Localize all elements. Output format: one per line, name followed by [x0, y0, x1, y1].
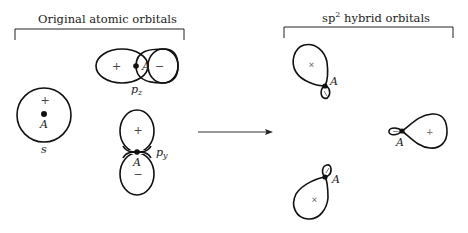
hybrid-plus-sign: + — [308, 193, 320, 205]
hybrid-major-lobe — [402, 114, 447, 148]
py-orbital: + A − py — [120, 110, 168, 195]
py-plus-sign: + — [134, 124, 143, 137]
py-orbital-label: py — [156, 146, 168, 160]
orbital-hybridization-diagram: Original atomic orbitals + A s + A − pz — [0, 0, 468, 233]
s-orbital-label: s — [41, 143, 47, 156]
nucleus-dot-icon — [41, 111, 47, 117]
hybrid-nucleus-label: A — [395, 136, 404, 149]
hybrid-minus-sign: − — [392, 126, 400, 136]
pz-nucleus-label: A — [141, 60, 150, 73]
original-orbitals-bracket — [15, 29, 184, 40]
original-orbitals-group: Original atomic orbitals + A s + A − pz — [15, 12, 184, 195]
hybrid-nucleus-label: A — [331, 173, 340, 186]
hybrid-orbital-upper-left: + A — [293, 44, 338, 98]
nucleus-dot-icon — [133, 63, 139, 69]
hybrid-orbitals-title: sp2 hybrid orbitals — [322, 10, 430, 25]
py-minus-sign: − — [134, 168, 143, 181]
s-orbital-sign: + — [41, 94, 50, 107]
nucleus-dot-icon — [134, 149, 140, 155]
hybrid-orbitals-group: sp2 hybrid orbitals + A + − A + A — [284, 10, 453, 219]
nucleus-dot-icon — [322, 83, 327, 88]
s-nucleus-label: A — [39, 118, 48, 131]
hybrid-orbital-lower: + A — [294, 165, 340, 219]
original-orbitals-title: Original atomic orbitals — [38, 12, 177, 26]
hybrid-orbitals-bracket — [284, 27, 453, 38]
transformation-arrow — [198, 129, 273, 135]
nucleus-dot-icon — [399, 128, 404, 133]
nucleus-dot-icon — [322, 174, 327, 179]
hybrid-orbital-right: + − A — [389, 114, 447, 149]
hybrid-nucleus-label: A — [329, 75, 338, 88]
pz-orbital-label: pz — [131, 83, 143, 97]
pz-plus-sign: + — [112, 60, 121, 73]
pz-orbital: + A − pz — [96, 49, 178, 97]
pz-minus-sign: − — [155, 60, 164, 73]
s-orbital: + A s — [17, 88, 71, 156]
hybrid-plus-sign: + — [426, 127, 434, 137]
hybrid-plus-sign: + — [305, 58, 317, 70]
